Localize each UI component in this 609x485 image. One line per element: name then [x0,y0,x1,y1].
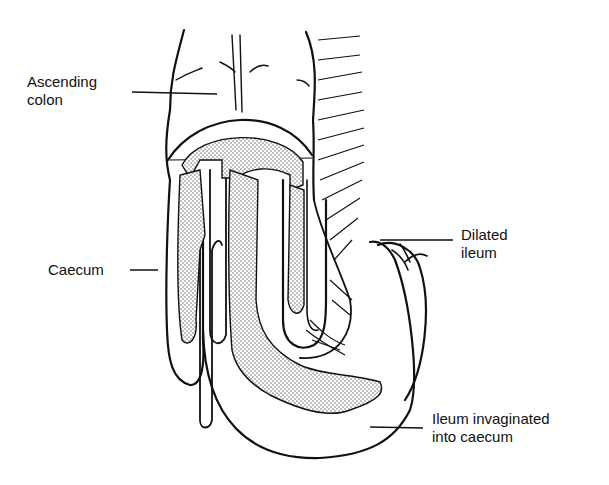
dilated-ileum-wall [378,243,426,400]
label-text: ileum [461,244,508,262]
intussusception-diagram: Ascendingcolon Caecum Dilatedileum Ileum… [0,0,609,485]
label-text: into caecum [432,428,550,446]
mucosa-right [288,185,304,313]
label-text: Ascending [27,73,97,91]
leader-ascending-colon [132,92,217,94]
leader-ileum-invaginated [370,427,423,428]
label-text: colon [27,91,97,109]
colon-right-wall [306,32,315,200]
label-ileum-invaginated: Ileum invaginatedinto caecum [432,410,550,446]
label-text: Ileum invaginated [432,410,550,428]
label-text: Dilated [461,226,508,244]
mucosa-left [178,170,205,343]
label-ascending-colon: Ascendingcolon [27,73,97,109]
label-text: Caecum [48,261,104,279]
label-caecum: Caecum [48,261,104,279]
mucosa-center [229,170,382,413]
label-dilated-ileum: Dilatedileum [461,226,508,262]
